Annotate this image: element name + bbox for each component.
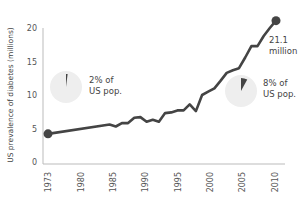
x-tick-label: 2005 [238, 172, 247, 192]
y-axis-ticks: 05101520 [27, 24, 37, 167]
y-tick-label: 15 [27, 58, 37, 67]
y-tick-label: 10 [27, 91, 37, 100]
x-tick-label: 2000 [206, 172, 215, 192]
x-tick-label: 1990 [141, 172, 150, 192]
x-tick-label: 1985 [109, 172, 118, 192]
annotation-8pct-line1: 8% of [263, 78, 288, 88]
y-tick-label: 5 [32, 125, 37, 134]
y-axis-label: US prevalence of diabetes (millions) [6, 27, 15, 163]
start-point-marker [44, 129, 53, 138]
x-tick-label: 2010 [271, 172, 280, 192]
annotation-8pct-line2: US pop. [263, 89, 296, 99]
end-value-label-line1: 21.1 [269, 35, 288, 45]
annotation-2pct-line1: 2% of [89, 75, 114, 85]
pie-8-percent [225, 75, 257, 107]
diabetes-prevalence-chart: US prevalence of diabetes (millions) 051… [0, 0, 306, 207]
y-tick-label: 20 [27, 24, 37, 33]
annotation-2pct-line2: US pop. [89, 86, 122, 96]
x-axis-ticks: 19731980198519901995200020052010 [44, 172, 280, 192]
end-value-label-line2: million [269, 46, 297, 56]
x-tick-label: 1973 [44, 172, 53, 192]
end-point-marker [272, 16, 281, 25]
y-tick-label: 0 [32, 158, 37, 167]
x-tick-label: 1995 [174, 172, 183, 192]
x-tick-label: 1980 [77, 172, 86, 192]
pie-2-percent [50, 71, 82, 103]
